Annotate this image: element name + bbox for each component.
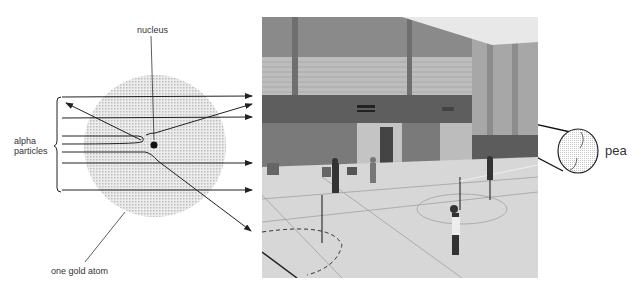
sports-hall-image — [262, 17, 538, 278]
alpha-label-line1: alpha — [14, 136, 48, 146]
pea-label: pea — [605, 143, 627, 158]
gold-atom-pointer — [85, 212, 125, 262]
pea-drawing — [558, 129, 598, 173]
alpha-bracket — [54, 97, 61, 192]
sports-hall-photo — [262, 17, 538, 278]
nucleus-dot — [151, 142, 158, 149]
nucleus-label: nucleus — [137, 25, 168, 35]
alpha-particles-label: alpha particles — [14, 136, 48, 157]
gold-atom-label: one gold atom — [51, 266, 108, 276]
alpha-label-line2: particles — [14, 146, 48, 156]
